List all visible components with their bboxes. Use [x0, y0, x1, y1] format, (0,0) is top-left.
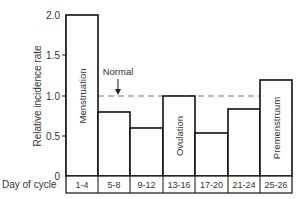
y-tick-2.0: 2.0: [46, 10, 60, 21]
y-tick-0.5: 0.5: [46, 131, 60, 142]
category-label: 21-24: [232, 180, 255, 190]
category-label: 1-4: [75, 180, 88, 190]
bar-9-12: [130, 128, 163, 176]
bar-5-8: [98, 112, 130, 176]
category-label: 17-20: [200, 180, 223, 190]
category-label: 13-16: [167, 180, 190, 190]
x-axis-row: Day of cycle 1-4 5-8 9-12 13-16 17-20 21…: [2, 176, 292, 193]
category-label: 9-12: [137, 180, 155, 190]
annotation-premenstruum: Premenstruum: [271, 97, 282, 159]
incidence-chart: Relative incidence rate 0 0.5 1.0 1.5 2.…: [0, 0, 307, 199]
reference-line-normal: Normal: [98, 66, 260, 96]
y-tick-1.5: 1.5: [46, 50, 60, 61]
category-label: 5-8: [107, 180, 120, 190]
y-axis: 0 0.5 1.0 1.5 2.0: [46, 10, 66, 182]
x-axis-title: Day of cycle: [2, 179, 57, 190]
normal-label: Normal: [103, 66, 134, 77]
category-label: 25-26: [264, 180, 287, 190]
y-axis-title: Relative incidence rate: [32, 45, 43, 147]
annotation-ovulation: Ovulation: [174, 116, 185, 156]
y-tick-1.0: 1.0: [46, 91, 60, 102]
bar-21-24: [228, 109, 260, 176]
annotation-menstruation: Menstruation: [77, 69, 88, 124]
bar-17-20: [195, 133, 228, 176]
